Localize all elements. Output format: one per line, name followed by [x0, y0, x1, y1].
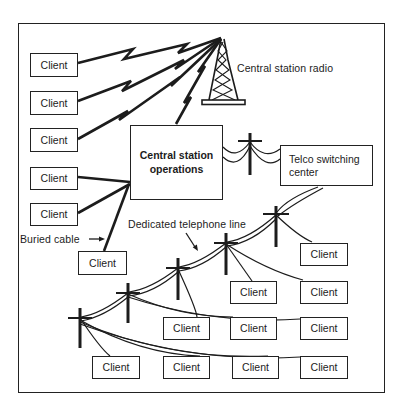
- wire-drop: [226, 244, 303, 280]
- client-label: Client: [89, 257, 116, 270]
- client-label: Client: [41, 134, 68, 147]
- buried-cable-line: [78, 177, 130, 182]
- client-box: Client: [232, 356, 279, 379]
- wire-drop: [178, 269, 197, 317]
- client-label: Client: [41, 97, 68, 110]
- wire: [223, 142, 250, 153]
- dedicated-telephone-line-label: Dedicated telephone line: [128, 218, 246, 230]
- client-box: Client: [230, 281, 277, 304]
- client-box: Client: [300, 356, 348, 379]
- client-box: Client: [30, 167, 78, 190]
- client-label: Client: [41, 172, 68, 185]
- buried-cable-arrow: [89, 237, 105, 242]
- wire: [277, 187, 318, 212]
- telephone-pole: [238, 133, 262, 175]
- radio-link-bolts: [78, 38, 221, 139]
- client-label: Client: [311, 286, 338, 299]
- client-label: Client: [242, 361, 269, 374]
- client-box: Client: [92, 356, 140, 379]
- telco-switching-center-box: Telco switching center: [280, 145, 373, 186]
- wire-drop: [276, 215, 312, 242]
- wire: [250, 146, 280, 163]
- central-station-operations-label: Central station operations: [135, 149, 218, 176]
- client-label: Client: [103, 361, 130, 374]
- client-label: Client: [240, 322, 267, 335]
- client-label: Client: [311, 361, 338, 374]
- telco-switching-center-label: Telco switching center: [289, 153, 368, 178]
- diagram-canvas: Client Client Client Client Client Clien…: [0, 0, 406, 409]
- client-label: Client: [173, 322, 200, 335]
- central-station-operations-box: Central station operations: [130, 125, 223, 200]
- buried-cable-line: [78, 184, 130, 213]
- client-label: Client: [173, 361, 200, 374]
- wire-drop: [226, 244, 252, 281]
- client-box: Client: [163, 317, 210, 340]
- tower-lattice: [213, 42, 235, 100]
- client-box: Client: [300, 317, 348, 340]
- buried-cable-lines: [78, 177, 130, 251]
- client-label: Client: [311, 248, 338, 261]
- client-label: Client: [311, 322, 338, 335]
- client-box: Client: [300, 243, 348, 266]
- telephone-pole: [263, 206, 289, 247]
- client-box: Client: [30, 53, 78, 77]
- dedicated-line-arrow: [186, 233, 198, 251]
- client-box: Client: [163, 356, 210, 379]
- client-box: Client: [30, 91, 78, 115]
- telephone-pole: [68, 308, 92, 348]
- wire-drop: [128, 294, 233, 317]
- client-label: Client: [240, 286, 267, 299]
- client-label: Client: [41, 59, 68, 72]
- wire: [223, 146, 250, 162]
- client-box: Client: [230, 317, 277, 340]
- client-box: Client: [78, 251, 127, 275]
- tower-base: [202, 100, 245, 105]
- wire: [278, 188, 323, 216]
- client-label: Client: [41, 208, 68, 221]
- client-box: Client: [300, 281, 348, 304]
- buried-cable-label: Buried cable: [20, 233, 80, 245]
- buried-cable-line: [104, 184, 129, 251]
- client-box: Client: [30, 128, 78, 152]
- central-station-radio-label: Central station radio: [237, 62, 333, 74]
- client-box: Client: [30, 203, 78, 226]
